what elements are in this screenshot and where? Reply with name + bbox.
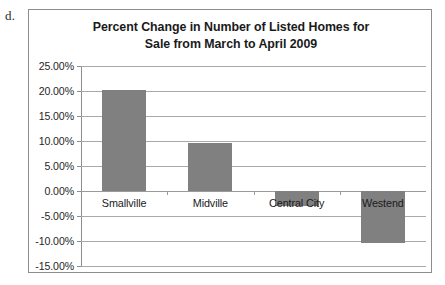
category-label: Smallville [102, 197, 147, 209]
chart-title-line-2: Sale from March to April 2009 [47, 36, 415, 53]
x-axis-tick [254, 191, 255, 195]
bar [188, 143, 232, 192]
y-axis-tick-label: -10.00% [35, 235, 74, 247]
y-axis-tick [77, 191, 81, 192]
y-axis-tick [77, 66, 81, 67]
y-axis-tick [77, 141, 81, 142]
y-axis-tick-label: 15.00% [39, 110, 74, 122]
bar [102, 90, 146, 191]
y-axis-tick-label: 20.00% [39, 85, 74, 97]
item-letter-label: d. [5, 8, 15, 24]
chart-title-line-1: Percent Change in Number of Listed Homes… [93, 20, 370, 34]
category-label: Midville [193, 197, 228, 209]
y-axis-tick [77, 116, 81, 117]
y-axis-tick [77, 166, 81, 167]
plot-area: 25.00%20.00%15.00%10.00%5.00%0.00%-5.00%… [81, 66, 426, 266]
y-axis-tick [77, 216, 81, 217]
x-axis-tick [167, 191, 168, 195]
gridline [81, 266, 426, 267]
y-axis-tick-label: 0.00% [44, 185, 74, 197]
category-label: Central City [269, 197, 324, 209]
gridline [81, 66, 426, 67]
y-axis-tick [77, 266, 81, 267]
y-axis-tick [77, 91, 81, 92]
y-axis-tick [77, 241, 81, 242]
y-axis-tick-label: 10.00% [39, 135, 74, 147]
x-axis-tick [340, 191, 341, 195]
chart-title: Percent Change in Number of Listed Homes… [47, 19, 415, 53]
chart-frame: Percent Change in Number of Listed Homes… [28, 9, 432, 273]
y-axis-tick-label: -5.00% [41, 210, 74, 222]
y-axis-tick-label: -15.00% [35, 260, 74, 272]
category-label: Westend [362, 197, 404, 209]
y-axis-tick-label: 5.00% [44, 160, 74, 172]
y-axis-tick-label: 25.00% [39, 60, 74, 72]
